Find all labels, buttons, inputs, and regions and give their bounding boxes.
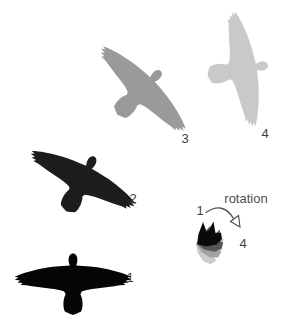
inset-bird-position-1 — [197, 222, 222, 247]
inset-end-label: 4 — [239, 236, 246, 251]
bird-3-label: 3 — [181, 131, 188, 146]
rotation-arrow-curve — [206, 208, 234, 219]
figure-svg: 1 2 3 4 rotation 1 4 — [0, 0, 285, 325]
bird-silhouette-4 — [197, 7, 278, 133]
bird-silhouette-2 — [14, 130, 146, 238]
bird-4-label: 4 — [261, 126, 268, 141]
bird-2-label: 2 — [129, 191, 136, 206]
rotation-title: rotation — [224, 191, 267, 206]
bird-1-label: 1 — [126, 270, 133, 285]
inset-start-label: 1 — [196, 203, 203, 218]
rotation-inset: rotation 1 4 — [194, 191, 268, 267]
bird-rotation-figure: 1 2 3 4 rotation 1 4 — [0, 0, 285, 325]
bird-silhouette-1 — [15, 254, 132, 316]
